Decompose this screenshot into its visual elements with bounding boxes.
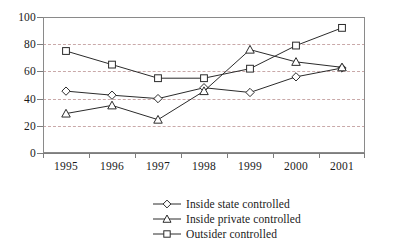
data-point-1998-square	[201, 75, 208, 82]
data-point-2000-diamond	[292, 73, 300, 81]
x-tick-label-2001: 2001	[330, 160, 354, 172]
data-point-1999-diamond	[246, 88, 254, 96]
data-point-1999-square	[247, 65, 254, 72]
y-tick-label-0: 0	[2, 147, 36, 159]
data-point-1996-diamond	[108, 91, 116, 99]
x-tick-mark-6	[319, 153, 320, 158]
x-axis: 1995199619971998199920002001	[43, 160, 365, 180]
data-point-1995-diamond	[62, 87, 70, 95]
x-tick-label-1999: 1999	[238, 160, 262, 172]
y-tick-label-20: 20	[2, 120, 36, 132]
x-tick-label-1997: 1997	[146, 160, 170, 172]
legend-label: Inside state controlled	[182, 198, 290, 210]
data-point-1997-diamond	[154, 94, 162, 102]
legend-label: Inside private controlled	[182, 213, 301, 225]
data-point-1997-square	[155, 75, 162, 82]
x-tick-mark-4	[227, 153, 228, 158]
data-point-1999-triangle	[246, 45, 255, 53]
triangle-marker-icon	[152, 212, 182, 226]
legend-label: Outsider controlled	[182, 228, 277, 240]
legend-item-1[interactable]: Inside state controlled	[152, 196, 382, 211]
x-tick-label-2000: 2000	[284, 160, 308, 172]
y-tick-label-80: 80	[2, 38, 36, 50]
chart-legend: Inside state controlledInside private co…	[152, 196, 382, 241]
x-tick-mark-3	[181, 153, 182, 158]
legend-item-3[interactable]: Outsider controlled	[152, 226, 382, 241]
data-series-layer	[43, 17, 365, 153]
data-point-2001-square	[339, 24, 346, 31]
data-point-1996-triangle	[108, 101, 117, 109]
x-tick-mark-7	[364, 153, 365, 158]
data-point-2000-square	[293, 42, 300, 49]
y-tick-label-40: 40	[2, 93, 36, 105]
line-chart: 020406080100 199519961997199819992000200…	[0, 0, 393, 246]
data-point-1997-triangle	[154, 115, 163, 123]
x-tick-mark-5	[273, 153, 274, 158]
series-line	[66, 28, 342, 78]
legend-item-2[interactable]: Inside private controlled	[152, 211, 382, 226]
series-outsider-controlled	[63, 24, 346, 81]
x-axis-ticks	[43, 153, 365, 159]
x-tick-label-1996: 1996	[100, 160, 124, 172]
data-point-1995-square	[63, 48, 70, 55]
square-marker-icon	[152, 227, 182, 241]
y-tick-label-60: 60	[2, 65, 36, 77]
x-tick-mark-0	[43, 153, 44, 158]
x-tick-label-1995: 1995	[54, 160, 78, 172]
x-tick-mark-2	[135, 153, 136, 158]
x-tick-mark-1	[89, 153, 90, 158]
data-point-1996-square	[109, 61, 116, 68]
y-axis: 020406080100	[0, 17, 36, 153]
y-tick-label-100: 100	[2, 11, 36, 23]
x-tick-label-1998: 1998	[192, 160, 216, 172]
series-inside-state-controlled	[62, 64, 346, 103]
diamond-marker-icon	[152, 197, 182, 211]
